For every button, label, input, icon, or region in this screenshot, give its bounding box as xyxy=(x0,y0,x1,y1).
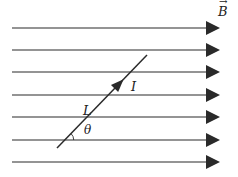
angle-arc xyxy=(71,134,74,140)
angle-label: θ xyxy=(84,124,91,136)
current-label: I xyxy=(131,80,136,93)
length-label: L xyxy=(83,104,92,117)
field-arrowhead-icon xyxy=(206,155,220,169)
vector-arrow-icon: → xyxy=(219,0,227,7)
field-arrowhead-icon xyxy=(206,110,220,124)
diagram-canvas xyxy=(0,0,238,177)
field-lines xyxy=(12,21,220,169)
field-arrowhead-icon xyxy=(206,21,220,35)
field-arrowhead-icon xyxy=(206,133,220,147)
field-arrowhead-icon xyxy=(206,88,220,102)
field-label-b: → B xyxy=(218,5,228,18)
field-arrowhead-icon xyxy=(206,43,220,57)
magnetic-field-diagram: → B I L θ xyxy=(0,0,238,177)
field-arrowhead-icon xyxy=(206,65,220,79)
wire xyxy=(57,55,147,148)
